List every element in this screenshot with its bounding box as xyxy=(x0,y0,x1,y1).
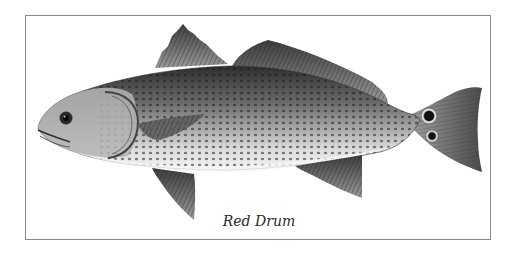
tail-spot-lower xyxy=(429,133,436,140)
figure-caption: Red Drum xyxy=(0,213,518,229)
tail-spot-upper xyxy=(424,111,434,121)
